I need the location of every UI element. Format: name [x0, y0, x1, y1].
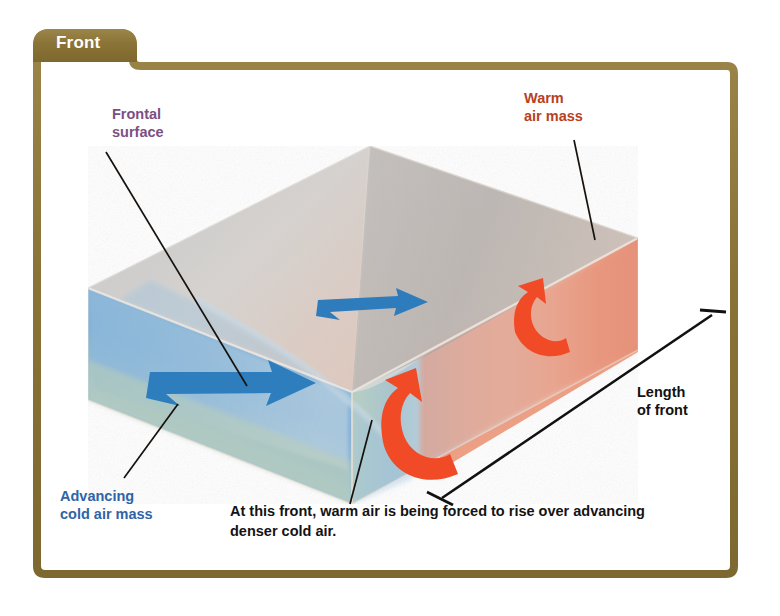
label-advancing-cold-air-mass: Advancing cold air mass [60, 488, 153, 523]
figure-caption: At this front, warm air is being forced … [230, 502, 650, 541]
label-length-of-front: Length of front [637, 384, 688, 419]
dimension-cap-top [700, 310, 726, 312]
figure-container: Front [0, 0, 780, 616]
label-warm-air-mass: Warm air mass [524, 90, 583, 125]
label-frontal-surface: Frontal surface [112, 106, 164, 141]
figure-title: Front [56, 33, 100, 53]
